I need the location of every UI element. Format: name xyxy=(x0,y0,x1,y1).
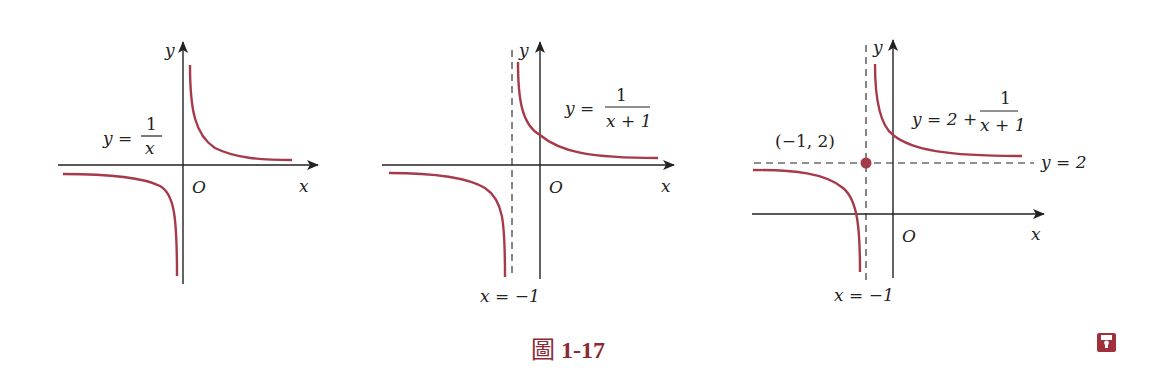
curve-lower-branch xyxy=(753,170,860,272)
figure-1-17: y x O y = 1 x y x O y = 1 x + 1 x = −1 y… xyxy=(0,0,1154,381)
vertical-asymptote-label: x = −1 xyxy=(480,286,540,306)
x-axis-label: x xyxy=(1031,224,1041,244)
origin-label: O xyxy=(902,226,916,246)
vertical-asymptote-label: x = −1 xyxy=(834,285,894,305)
center-point-label: (−1, 2) xyxy=(775,131,835,151)
equation-lhs: y = 2 + xyxy=(911,109,977,129)
caption-number: 1-17 xyxy=(561,337,605,363)
curve-lower-branch xyxy=(389,173,505,277)
horizontal-asymptote-label: y = 2 xyxy=(1040,152,1086,172)
equation-numerator: 1 xyxy=(1000,88,1011,108)
equation-numerator: 1 xyxy=(146,114,157,134)
equation-lhs: y = xyxy=(102,128,132,148)
center-point xyxy=(861,158,872,169)
y-axis-label: y xyxy=(872,37,883,57)
equation-numerator: 1 xyxy=(616,85,627,105)
curve-upper-branch xyxy=(190,65,292,160)
equation-denominator: x + 1 xyxy=(606,111,651,131)
curve-lower-branch xyxy=(63,174,177,276)
graph-shifted-left-up: y x O y = 2 + 1 x + 1 (−1, 2) y = 2 x = … xyxy=(752,37,1086,305)
caption-char: 圖 xyxy=(531,337,555,363)
x-axis-label: x xyxy=(661,176,671,196)
figure-caption: 圖1-17 xyxy=(531,330,605,365)
equation-denominator: x xyxy=(145,138,155,158)
origin-label: O xyxy=(549,177,563,197)
x-axis-label: x xyxy=(299,176,309,196)
graph-shifted-left: y x O y = 1 x + 1 x = −1 xyxy=(382,40,674,306)
origin-label: O xyxy=(192,177,206,197)
equation-denominator: x + 1 xyxy=(980,115,1025,135)
equation-lhs: y = xyxy=(564,98,594,118)
y-axis-label: y xyxy=(518,40,529,60)
graph-reciprocal: y x O y = 1 x xyxy=(58,40,318,284)
y-axis-label: y xyxy=(164,40,175,60)
save-icon[interactable] xyxy=(1097,333,1116,352)
